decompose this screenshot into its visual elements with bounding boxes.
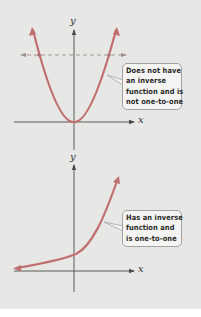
callout-line: not one-to-one	[126, 97, 178, 107]
x-axis-label-top: x	[138, 114, 144, 125]
callout-line: Has an inverse	[126, 213, 178, 223]
exponential-graph	[13, 165, 134, 292]
callout-not-one-to-one: Does not have an inverse function and is…	[122, 63, 182, 110]
intersection-point-left	[37, 53, 40, 56]
y-axis-label-top: y	[70, 15, 76, 26]
callout-line: function and is	[126, 87, 178, 97]
exponential-left-arrow	[13, 265, 21, 272]
x-axis-label-bottom: x	[138, 263, 144, 274]
callout-pointer	[107, 75, 123, 85]
callout-pointer	[104, 222, 123, 231]
callout-line: an inverse	[126, 76, 178, 86]
exponential-right-arrow	[113, 176, 120, 184]
callout-line: Does not have	[126, 66, 178, 76]
exponential-curve	[17, 181, 117, 268]
parabola-curve	[33, 30, 116, 122]
dashed-left-arrow	[20, 53, 26, 57]
parabola-graph	[14, 27, 134, 150]
graphs-svg	[0, 0, 201, 317]
y-axis-label-bottom: y	[70, 151, 76, 162]
callout-line: function and	[126, 223, 178, 233]
callout-one-to-one: Has an inverse function and is one-to-on…	[122, 210, 182, 247]
callout-line: is one-to-one	[126, 234, 178, 244]
intersection-point-right	[107, 53, 110, 56]
